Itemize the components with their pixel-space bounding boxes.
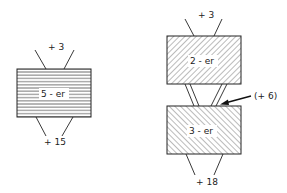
right-input-label: + 3 bbox=[198, 10, 214, 20]
right-group: + 3 2 - er (+ 6) 3 - er + 18 bbox=[167, 10, 277, 187]
left-output-label: + 15 bbox=[44, 137, 66, 147]
right-output-line-a bbox=[186, 154, 195, 175]
right-input-line-b bbox=[214, 19, 222, 36]
right-output-label: + 18 bbox=[196, 177, 218, 187]
diagram-canvas: + 3 5 - er + 15 + 3 2 - er (+ 6) 3 - er … bbox=[0, 0, 287, 193]
left-input-line-a bbox=[35, 50, 46, 69]
right-output-line-b bbox=[214, 154, 223, 175]
left-group: + 3 5 - er + 15 bbox=[17, 42, 91, 147]
right-input-line-a bbox=[185, 19, 194, 36]
left-input-label: + 3 bbox=[48, 42, 64, 52]
right-bottom-box-label: 3 - er bbox=[189, 126, 213, 136]
left-box-label: 5 - er bbox=[41, 89, 65, 99]
intermediate-label: (+ 6) bbox=[254, 91, 277, 101]
connector-line-3 bbox=[211, 84, 222, 106]
connector-line-1 bbox=[185, 84, 194, 106]
left-output-line-b bbox=[62, 117, 73, 136]
connector-line-2 bbox=[190, 84, 199, 106]
left-input-line-b bbox=[64, 50, 74, 69]
right-top-box-label: 2 - er bbox=[190, 56, 214, 66]
intermediate-arrow-icon bbox=[225, 96, 251, 103]
arrowhead-icon bbox=[220, 100, 229, 106]
left-output-line-a bbox=[36, 117, 46, 136]
